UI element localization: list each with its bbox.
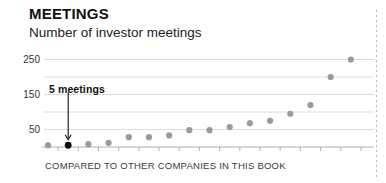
data-point — [45, 142, 51, 148]
data-point — [186, 127, 192, 133]
chart-subtitle: Number of investor meetings — [29, 24, 359, 41]
plot-area: 50150250 — [0, 52, 386, 157]
data-point — [307, 102, 313, 108]
data-point — [85, 141, 91, 147]
data-point — [166, 132, 172, 138]
data-point — [227, 124, 233, 130]
y-axis-tick-label: 50 — [29, 124, 41, 135]
page-title: MEETINGS — [29, 5, 359, 22]
y-axis-tick-label: 150 — [23, 89, 40, 100]
annotation-label: 5 meetings — [49, 83, 105, 95]
data-point — [287, 111, 293, 117]
y-axis-tick-label: 250 — [23, 54, 40, 65]
data-point — [267, 118, 273, 124]
data-point — [328, 74, 334, 80]
data-point — [348, 56, 354, 62]
data-point — [247, 120, 253, 126]
scatter-plot-svg: 50150250 — [0, 52, 386, 157]
chart-figure: MEETINGS Number of investor meetings 501… — [0, 0, 386, 183]
right-dotted-divider — [376, 10, 377, 178]
data-point-highlighted — [65, 142, 72, 149]
chart-header: MEETINGS Number of investor meetings — [29, 5, 359, 41]
data-point — [105, 140, 111, 146]
data-point — [146, 134, 152, 140]
data-point — [206, 127, 212, 133]
axis-caption: COMPARED TO OTHER COMPANIES IN THIS BOOK — [45, 160, 286, 171]
data-point — [126, 134, 132, 140]
